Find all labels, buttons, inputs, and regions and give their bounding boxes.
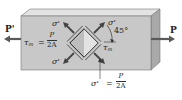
shear-stress-label-right: τm — [103, 44, 112, 52]
shear-equals: = — [38, 39, 45, 47]
shear-stress-symbol: τm — [24, 39, 33, 47]
load-label-left: P' — [5, 25, 15, 34]
diagram: P' P τm = P 2A σ' σ' σ' 45° τm σ' = P 2A — [0, 0, 182, 100]
bar-top-face — [21, 9, 160, 16]
shear-denominator: 2A — [47, 41, 57, 49]
normal-numerator: P — [116, 73, 126, 82]
shear-numerator: P — [47, 32, 57, 41]
load-label-right: P — [170, 26, 177, 35]
normal-equation-symbol: σ' — [91, 80, 99, 88]
tau-subscript-right: m — [107, 46, 112, 52]
angle-label: 45° — [114, 27, 128, 35]
tau-subscript: m — [28, 41, 33, 47]
normal-denominator: 2A — [116, 82, 126, 90]
normal-equation-equals: = — [106, 80, 113, 88]
shear-fraction: P 2A — [47, 32, 57, 49]
normal-stress-label-bottom-left: σ' — [52, 58, 60, 66]
normal-stress-label-top-left: σ' — [52, 20, 60, 28]
normal-equation-fraction: P 2A — [116, 73, 126, 90]
load-arrow-left — [4, 36, 21, 43]
